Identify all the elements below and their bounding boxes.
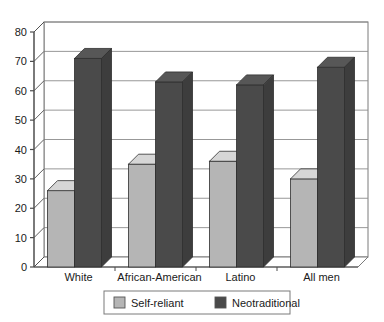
bar-front-face [129, 164, 156, 267]
y-tick-label: 50 [15, 114, 27, 126]
bar [318, 57, 355, 267]
bar-front-face [48, 191, 75, 267]
bar-front-face [318, 67, 345, 267]
legend: Self-reliantNeotraditional [104, 291, 300, 314]
y-tick-label: 80 [15, 26, 27, 38]
y-tick-label: 70 [15, 55, 27, 67]
legend-label: Self-reliant [131, 297, 184, 309]
y-tick-label: 0 [21, 261, 27, 273]
x-axis-labels: WhiteAfrican-AmericanLatinoAll men [64, 271, 339, 283]
bar [156, 72, 193, 267]
y-tick-label: 40 [15, 144, 27, 156]
y-tick-label: 30 [15, 173, 27, 185]
bar-front-face [156, 82, 183, 267]
bar-front-face [237, 85, 264, 267]
legend-swatch [114, 297, 125, 308]
legend-label: Neotraditional [232, 297, 300, 309]
bar-side-face [264, 75, 274, 267]
x-category-label: African-American [117, 271, 201, 283]
y-tick-label: 10 [15, 232, 27, 244]
bar-front-face [291, 179, 318, 267]
x-category-label: White [64, 271, 92, 283]
bar-side-face [345, 57, 355, 267]
y-axis-ticks: 01020304050607080 [15, 26, 34, 273]
bar-chart: 01020304050607080 WhiteAfrican-AmericanL… [0, 0, 384, 322]
bar-front-face [75, 58, 102, 267]
bar-side-face [183, 72, 193, 267]
bar [237, 75, 274, 267]
chart-container: 01020304050607080 WhiteAfrican-AmericanL… [0, 0, 384, 322]
bar [75, 48, 112, 267]
bar-side-face [102, 48, 112, 267]
legend-swatch [215, 297, 226, 308]
x-category-label: All men [303, 271, 340, 283]
x-category-label: Latino [226, 271, 256, 283]
bar-front-face [210, 161, 237, 267]
y-tick-label: 60 [15, 85, 27, 97]
y-tick-label: 20 [15, 202, 27, 214]
